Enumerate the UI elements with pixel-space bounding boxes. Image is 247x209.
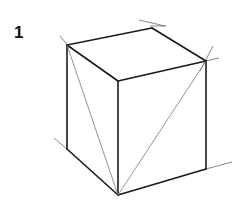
face-diagonals (67, 45, 206, 195)
cube-drawing (0, 0, 247, 209)
cube-edges (67, 28, 206, 195)
